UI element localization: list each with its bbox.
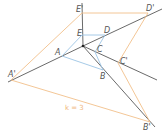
label-c-prime: C' — [120, 57, 128, 66]
label-e: E — [77, 29, 83, 38]
label-b: B — [100, 72, 106, 81]
label-b-prime: B' — [143, 123, 151, 132]
label-a: A — [54, 48, 60, 57]
label-a-prime: A' — [7, 70, 16, 79]
rays — [8, 3, 162, 127]
diagram-canvas: E' D' E D C A C' B A' B' k = 3 — [0, 0, 163, 133]
scale-factor-label: k = 3 — [65, 104, 84, 112]
label-e-prime: E' — [76, 5, 83, 14]
ray-b — [83, 46, 155, 127]
label-d-prime: D' — [146, 4, 154, 13]
ray-a — [8, 46, 83, 82]
label-c: C — [97, 45, 103, 54]
ray-d — [83, 9, 162, 46]
enlargement-diagram: E' D' E D C A C' B A' B' k = 3 — [0, 0, 163, 133]
center-point — [82, 45, 85, 48]
label-d: D — [104, 26, 110, 35]
